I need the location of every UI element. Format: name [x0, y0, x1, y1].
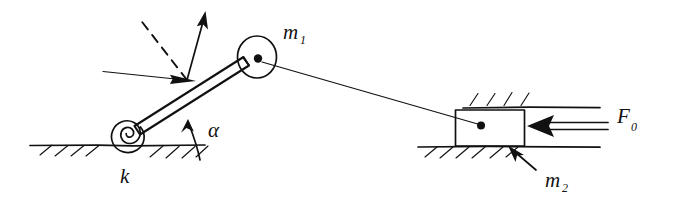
- ground-left: [30, 145, 208, 158]
- angle-label: α: [208, 118, 220, 142]
- pulley-hub: [254, 54, 262, 62]
- block-mass-label: m 2: [545, 168, 568, 195]
- applied-force-label: F 0: [616, 104, 637, 134]
- cable: [262, 62, 480, 125]
- reference-dashed-line: [139, 18, 187, 80]
- pulley-mass-label-text: m: [283, 20, 298, 44]
- angle-label-text: α: [208, 118, 220, 142]
- angle-indicator: [181, 119, 200, 160]
- pulley-mass-label-subscript: 1: [300, 33, 306, 47]
- applied-force-label-text: F: [616, 104, 630, 128]
- applied-force-label-subscript: 0: [631, 120, 637, 134]
- slider-block: [456, 110, 525, 146]
- guide-rail-upper: [463, 93, 600, 109]
- block-mass-label-subscript: 2: [562, 181, 568, 195]
- leader-arrow-m2: [508, 146, 536, 171]
- force-arrow: [527, 115, 608, 137]
- spring-stiffness-label: k: [120, 164, 130, 188]
- normal-arrow: [187, 11, 208, 80]
- diagram-svg: k α: [0, 0, 673, 199]
- rocking-bar: [135, 57, 250, 135]
- mechanism-diagram: k α: [0, 0, 673, 199]
- ground-right-lower: [418, 146, 600, 158]
- spring-stiffness-label-text: k: [120, 164, 130, 188]
- block-mass-label-text: m: [545, 168, 560, 192]
- torsion-spring: [111, 121, 144, 153]
- pulley-mass-label: m 1: [283, 20, 306, 47]
- block-pin: [477, 122, 485, 130]
